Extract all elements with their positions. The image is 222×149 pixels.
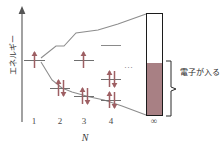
- electron-up-n3-1: [80, 51, 87, 69]
- x-tick-1: 1: [26, 116, 42, 126]
- brace-bracket: [164, 60, 178, 118]
- electron-up-n1-1: [31, 51, 38, 69]
- x-axis-title: N: [75, 132, 95, 143]
- level-n4-1-empty: [101, 45, 121, 46]
- continuum-band-bar: [146, 13, 163, 116]
- figure-canvas: エネルギー: [0, 0, 222, 149]
- x-tick-4: 4: [103, 116, 119, 126]
- electron-down-n3-2: [84, 87, 91, 105]
- x-tick-infinity: ∞: [146, 116, 162, 126]
- x-tick-3: 3: [76, 116, 92, 126]
- band-annotation-label: 電子が入る: [180, 66, 220, 77]
- x-tick-2: 2: [52, 116, 68, 126]
- electron-down-n2-1: [60, 79, 67, 97]
- ellipsis-dots: …: [124, 60, 135, 70]
- electron-down-n4-3: [111, 91, 118, 109]
- band-filled-region: [147, 63, 162, 115]
- electron-down-n4-2: [111, 70, 118, 88]
